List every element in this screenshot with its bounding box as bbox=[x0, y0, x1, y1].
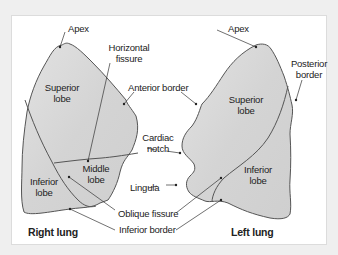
lingula-label: Lingula bbox=[130, 182, 159, 193]
left-superior-lobe-line1: Superior bbox=[226, 94, 266, 105]
left-inferior-lobe-label: Inferior lobe bbox=[238, 164, 278, 186]
left-inferior-lobe-line2: lobe bbox=[238, 175, 278, 186]
anterior-border-label: Anterior border bbox=[128, 82, 188, 93]
middle-lobe-line1: Middle bbox=[78, 163, 114, 174]
left-superior-lobe-line2: lobe bbox=[226, 105, 266, 116]
right-inferior-lobe-line2: lobe bbox=[26, 187, 62, 198]
posterior-border-line2: border bbox=[287, 69, 331, 80]
left-apex-label: Apex bbox=[228, 23, 249, 34]
left-lung-title: Left lung bbox=[231, 227, 274, 238]
middle-lobe-line2: lobe bbox=[78, 174, 114, 185]
cardiac-notch-line2: notch bbox=[141, 143, 175, 154]
horizontal-fissure-label: Horizontal fissure bbox=[104, 42, 154, 64]
left-inferior-lobe-line1: Inferior bbox=[238, 164, 278, 175]
posterior-border-label: Posterior border bbox=[287, 58, 331, 80]
right-inferior-lobe-line1: Inferior bbox=[26, 176, 62, 187]
cardiac-notch-label: Cardiac notch bbox=[141, 132, 175, 154]
left-lung bbox=[182, 44, 293, 219]
right-superior-lobe-label: Superior lobe bbox=[42, 82, 82, 104]
middle-lobe-label: Middle lobe bbox=[78, 163, 114, 185]
horizontal-fissure-line1: Horizontal bbox=[104, 42, 154, 53]
left-superior-lobe-label: Superior lobe bbox=[226, 94, 266, 116]
inferior-border-label: Inferior border bbox=[119, 224, 176, 235]
right-apex-label: Apex bbox=[68, 23, 89, 34]
cardiac-notch-line1: Cardiac bbox=[141, 132, 175, 143]
horizontal-fissure-line2: fissure bbox=[104, 53, 154, 64]
posterior-border-line1: Posterior bbox=[287, 58, 331, 69]
right-inferior-lobe-label: Inferior lobe bbox=[26, 176, 62, 198]
oblique-fissure-label: Oblique fissure bbox=[118, 208, 178, 219]
left-lung-outline bbox=[182, 44, 293, 219]
right-superior-lobe-line1: Superior bbox=[42, 82, 82, 93]
right-superior-lobe-line2: lobe bbox=[42, 93, 82, 104]
right-lung-title: Right lung bbox=[28, 227, 78, 238]
